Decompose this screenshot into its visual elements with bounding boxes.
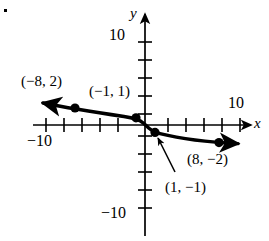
leader-line-point-1-neg1 [158, 138, 175, 172]
point-label-8-neg2: (8, −2) [187, 152, 228, 167]
point-marker [70, 103, 79, 112]
x-axis-tick-label-neg10: −10 [27, 133, 52, 149]
point-marker [214, 138, 223, 147]
x-axis-label: x [254, 116, 261, 131]
y-axis-tick-label-10: 10 [109, 27, 125, 43]
point-label-neg1-1: (−1, 1) [89, 84, 130, 99]
point-label-1-neg1: (1, −1) [165, 180, 206, 195]
coordinate-plane [0, 0, 269, 241]
x-axis-tick-label-10: 10 [228, 95, 244, 111]
y-axis-label: y [130, 6, 137, 21]
point-label-neg8-2: (−8, 2) [21, 74, 62, 89]
point-marker [150, 128, 159, 137]
y-axis-tick-label-neg10: −10 [101, 205, 126, 221]
graph-figure: y x 10 −10 −10 10 (−8, 2) (−1, 1) (1, −1… [0, 0, 269, 241]
point-marker [131, 113, 140, 122]
